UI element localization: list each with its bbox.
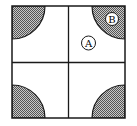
corner-shade-top-left	[12, 6, 45, 39]
label-b-text: B	[108, 14, 115, 25]
corner-shade-bottom-right	[92, 85, 125, 118]
label-b: B	[106, 13, 119, 26]
corner-shade-bottom-left	[12, 85, 45, 118]
label-a: A	[82, 36, 96, 50]
diagram-canvas: A B	[0, 0, 137, 126]
label-a-text: A	[84, 38, 93, 49]
